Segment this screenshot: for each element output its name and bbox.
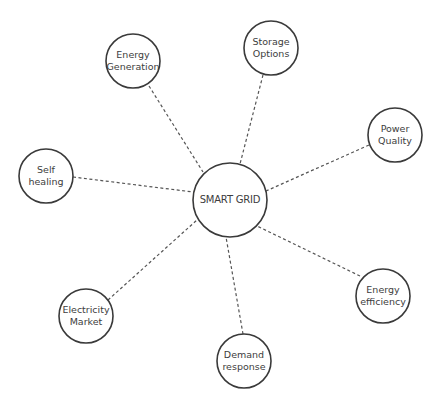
- connector-self-healing: [73, 177, 193, 192]
- connector-demand-response: [226, 237, 243, 334]
- node-storage-options[interactable]: [244, 21, 298, 75]
- node-energy-generation[interactable]: [106, 34, 160, 88]
- node-electricity-market[interactable]: [59, 289, 113, 343]
- connector-power-quality: [266, 145, 369, 191]
- connector-electricity-market: [108, 220, 197, 300]
- node-energy-efficiency[interactable]: [356, 269, 410, 323]
- node-demand-response[interactable]: [217, 334, 271, 388]
- node-smart-grid[interactable]: [193, 163, 267, 237]
- connector-energy-efficiency: [257, 226, 360, 276]
- connector-energy-generation: [149, 86, 203, 172]
- node-self-healing[interactable]: [19, 149, 73, 203]
- connector-storage-options: [240, 75, 263, 164]
- node-power-quality[interactable]: [368, 108, 422, 162]
